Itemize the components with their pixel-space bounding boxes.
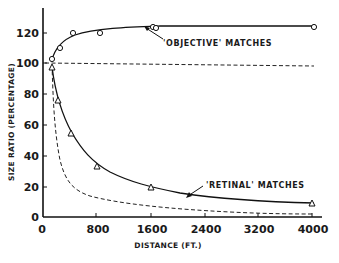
x-tick-label: 2400 [191, 223, 222, 236]
circle-marker [57, 45, 62, 50]
objective-annotation: 'OBJECTIVE' MATCHES [144, 26, 272, 48]
y-tick-label: 80 [24, 88, 40, 101]
retinal-annotation-label: 'RETINAL' MATCHES [206, 181, 305, 190]
triangle-marker [49, 64, 55, 70]
chart: 0 20 40 60 80 100 120 0 800 1600 2400 32… [0, 0, 339, 263]
triangle-marker [68, 130, 74, 136]
triangle-marker [94, 163, 100, 169]
x-axis-title: DISTANCE (FT.) [134, 241, 201, 250]
circle-marker [153, 25, 158, 30]
y-tick-label: 100 [16, 57, 39, 70]
x-tick-label: 800 [87, 223, 110, 236]
y-tick-label: 20 [24, 181, 40, 194]
circle-marker [70, 30, 75, 35]
circle-marker [311, 24, 316, 29]
y-tick-label: 40 [24, 150, 40, 163]
x-tick-label: 4000 [298, 223, 329, 236]
y-axis-title: SIZE RATIO (PERCENTAGE) [7, 63, 16, 181]
circle-marker [49, 56, 54, 61]
y-tick-label: 120 [16, 27, 39, 40]
y-tick-labels: 0 20 40 60 80 100 120 [16, 27, 39, 224]
x-tick-label: 3200 [244, 223, 275, 236]
x-tick-label: 1600 [137, 223, 168, 236]
circle-marker [97, 30, 102, 35]
reference-100-dashed-line [45, 63, 314, 66]
x-tick-labels: 0 800 1600 2400 3200 4000 [38, 223, 328, 236]
objective-annotation-label: 'OBJECTIVE' MATCHES [163, 39, 272, 48]
x-tick-label: 0 [38, 223, 46, 236]
triangle-marker [55, 97, 61, 103]
retinal-annotation: 'RETINAL' MATCHES [186, 181, 305, 198]
y-tick-label: 60 [24, 119, 40, 132]
retinal-prediction-dashed-curve [52, 65, 314, 214]
